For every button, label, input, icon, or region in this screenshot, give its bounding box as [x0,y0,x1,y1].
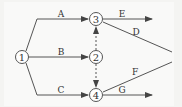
node-4-label: 4 [93,90,99,101]
node-1-label: 1 [19,52,25,63]
node-2-label: 2 [93,52,99,63]
edge-a-label: A [57,9,65,19]
node-3: 3 [90,13,103,26]
edge-e-label: E [119,9,126,19]
node-4: 4 [90,89,103,102]
diagram-svg: 1 2 3 4 A B C E D F G [0,0,182,107]
node-1: 1 [16,51,29,64]
edge-g-label: G [118,85,125,95]
network-diagram: 1 2 3 4 A B C E D F G [0,0,182,107]
edge-b-label: B [58,47,65,57]
edge-f-label: F [132,67,138,77]
edge-c-label: C [58,85,65,95]
node-3-label: 3 [93,14,99,25]
edge-d-label: D [132,27,139,37]
node-2: 2 [90,51,103,64]
